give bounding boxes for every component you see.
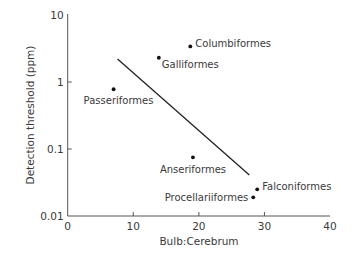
x-axis-title: Bulb:Cerebrum	[159, 235, 238, 247]
point-label: Anseriformes	[160, 164, 226, 175]
point-label: Passeriformes	[84, 95, 154, 106]
data-point	[255, 187, 259, 191]
y-tick-label: 0.01	[40, 210, 63, 222]
x-tick-label: 20	[192, 220, 205, 232]
y-axis-title: Detection threshold (ppm)	[24, 46, 36, 185]
point-label: Columbiformes	[195, 38, 271, 49]
point-label: Galliformes	[162, 59, 219, 70]
x-tick-label: 0	[64, 220, 71, 232]
data-points: PasseriformesGalliformesColumbiformesAns…	[84, 38, 332, 203]
trend-line	[118, 59, 250, 175]
scatter-chart: 0102030400.010.1110 PasseriformesGallifo…	[0, 0, 357, 261]
regression-line	[118, 59, 250, 175]
point-label: Falconiformes	[262, 181, 331, 192]
data-point	[188, 44, 192, 48]
x-tick-label: 10	[127, 220, 140, 232]
x-tick-label: 40	[323, 220, 336, 232]
data-point	[251, 195, 255, 199]
x-tick-label: 30	[258, 220, 271, 232]
y-tick-label: 0.1	[47, 143, 64, 155]
point-label: Procellariiformes	[165, 192, 249, 203]
data-point	[112, 87, 116, 91]
y-tick-label: 10	[50, 9, 63, 21]
y-tick-label: 1	[57, 76, 64, 88]
data-point	[157, 56, 161, 60]
data-point	[191, 155, 195, 159]
